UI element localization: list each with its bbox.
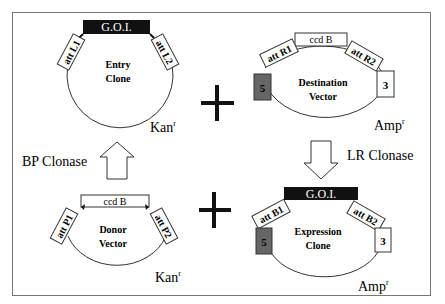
donor-vector: ccd B att P1 att P2 Donor Vector Kanr bbox=[50, 195, 181, 285]
donor-att-p2: att P2 bbox=[150, 208, 177, 244]
donor-name-line1: Donor bbox=[99, 224, 127, 235]
svg-text:3: 3 bbox=[380, 235, 386, 247]
expression-att-b1: att B1 bbox=[252, 199, 290, 228]
lr-arrow-down-icon bbox=[304, 141, 338, 179]
bp-arrow-up-icon bbox=[100, 142, 134, 179]
gateway-diagram: G.O.I. att L1 att L2 Entry Clone Kanr cc… bbox=[0, 0, 445, 304]
entry-att-l1: att L1 bbox=[57, 34, 84, 70]
donor-ccdb-label: ccd B bbox=[103, 196, 126, 207]
donor-name-line2: Vector bbox=[99, 238, 128, 249]
destination-vector: ccd B att R1 att R2 5 3 Destination Vect… bbox=[254, 33, 405, 133]
entry-resistance: Kanr bbox=[150, 119, 176, 135]
destination-att-r1: att R1 bbox=[260, 39, 298, 67]
expression-name-line2: Clone bbox=[306, 240, 332, 251]
lr-clonase-label: LR Clonase bbox=[347, 148, 414, 163]
entry-name-line1: Entry bbox=[106, 59, 131, 70]
destination-name-line1: Destination bbox=[299, 77, 348, 88]
bp-clonase-label: BP Clonase bbox=[22, 154, 87, 169]
expression-clone: G.O.I. att B1 att B2 5 3 Expression Clon… bbox=[252, 187, 391, 294]
svg-text:5: 5 bbox=[260, 82, 266, 94]
expression-goi-label: G.O.I. bbox=[306, 187, 336, 201]
destination-name-line2: Vector bbox=[309, 91, 338, 102]
svg-text:3: 3 bbox=[383, 79, 389, 91]
plus-icon bbox=[199, 192, 231, 228]
donor-att-p1: att P1 bbox=[50, 208, 77, 244]
expression-name-line1: Expression bbox=[294, 226, 341, 237]
entry-goi-label: G.O.I. bbox=[101, 20, 131, 34]
entry-name-line2: Clone bbox=[106, 73, 132, 84]
destination-ccdb-label: ccd B bbox=[309, 34, 332, 45]
entry-att-l2: att L2 bbox=[151, 34, 178, 70]
plus-icon bbox=[201, 85, 234, 121]
expression-resistance: Ampr bbox=[358, 278, 389, 294]
destination-att-r2: att R2 bbox=[345, 41, 383, 71]
expression-plasmid-ellipse bbox=[272, 252, 378, 277]
donor-resistance: Kanr bbox=[155, 269, 181, 285]
svg-text:5: 5 bbox=[261, 236, 267, 248]
expression-att-b2: att B2 bbox=[347, 201, 385, 231]
entry-clone: G.O.I. att L1 att L2 Entry Clone Kanr bbox=[57, 20, 178, 135]
destination-resistance: Ampr bbox=[374, 117, 405, 133]
